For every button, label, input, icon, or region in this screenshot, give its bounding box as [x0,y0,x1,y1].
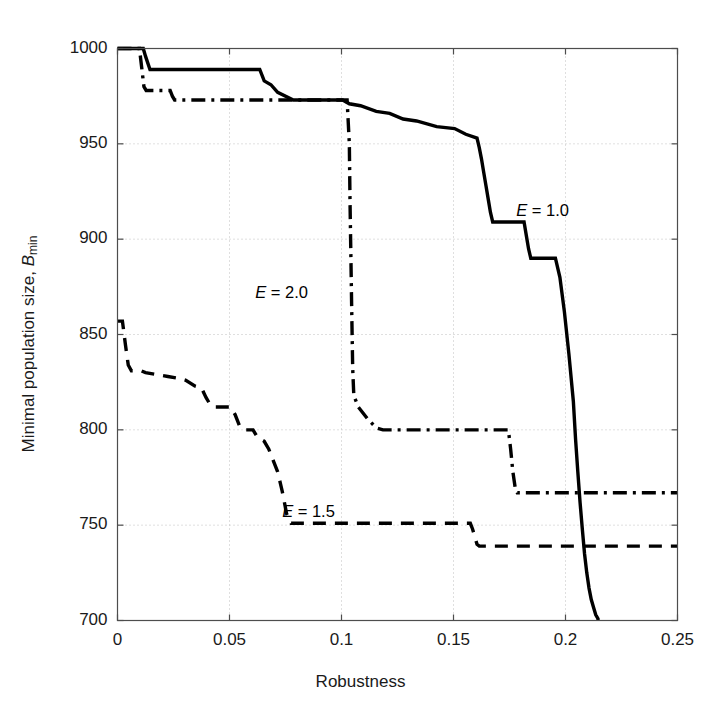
y-tick-label: 950 [50,133,108,153]
series-label-variable: E [282,502,293,520]
y-tick-label: 850 [50,324,108,344]
y-axis-title-subscript: min [26,236,40,255]
x-tick-label: 0 [83,630,153,650]
y-tick-label: 1000 [50,38,108,58]
y-tick-label: 800 [50,419,108,439]
y-axis-title-main: Minimal population size, [19,266,38,452]
series-label-1-5: E = 1.5 [282,502,335,521]
y-axis-title-container: Minimal population size, Bmin [19,58,41,630]
y-tick-label: 750 [50,514,108,534]
series-label-value: = 1.5 [293,502,335,520]
x-tick-label: 0.15 [419,630,489,650]
x-tick-label: 0.05 [195,630,265,650]
y-axis-title: Minimal population size, Bmin [19,236,39,453]
series-label-value: = 2.0 [266,283,308,301]
series-label-value: = 1.0 [527,201,569,219]
chart-figure: 7007508008509009501000 00.050.10.150.20.… [0,0,721,717]
gridlines [118,49,678,621]
series-label-variable: E [255,283,266,301]
y-tick-label: 900 [50,228,108,248]
x-tick-label: 0.25 [643,630,713,650]
x-tick-label: 0.1 [307,630,377,650]
x-tick-label: 0.2 [531,630,601,650]
x-axis-title: Robustness [0,672,721,692]
series-label-2-0: E = 2.0 [255,283,308,302]
y-tick-label: 700 [50,610,108,630]
plot-canvas [0,0,721,717]
y-axis-title-variable: B [19,255,38,266]
series-label-1-0: E = 1.0 [516,201,569,220]
series-label-variable: E [516,201,527,219]
series-line-1-5 [118,321,678,546]
